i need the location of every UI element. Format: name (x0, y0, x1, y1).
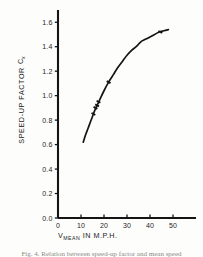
data-curve (83, 30, 168, 143)
y-tick-label: 1.6 (42, 19, 52, 26)
axes (58, 10, 196, 218)
y-tick-label: 0.0 (42, 215, 52, 222)
figure-caption: Fig. 4. Relation between speed-up factor… (0, 249, 203, 257)
x-tick-label: 30 (123, 222, 131, 229)
figure-panel: 0.00.20.40.60.81.01.21.41.601020304050 S… (0, 0, 203, 257)
curve-path (83, 30, 168, 143)
y-axis-title-symbol: Cx (16, 56, 26, 64)
data-point-marker (95, 104, 99, 106)
y-tick-label: 0.4 (42, 166, 52, 173)
data-points (92, 31, 163, 115)
x-axis-units: IN M.P.H. (83, 231, 118, 240)
tick-marks (55, 22, 173, 218)
y-tick-label: 1.2 (42, 68, 52, 75)
y-axis-symbol-base: C (16, 59, 25, 64)
x-tick-label: 50 (169, 222, 177, 229)
x-tick-label: 10 (77, 222, 85, 229)
x-axis-symbol-subscript: MEAN (63, 235, 80, 241)
x-tick-label: 0 (56, 222, 60, 229)
tick-labels: 0.00.20.40.60.81.01.21.41.601020304050 (42, 19, 177, 229)
y-tick-label: 1.4 (42, 43, 52, 50)
y-tick-label: 0.2 (42, 190, 52, 197)
y-axis-title: SPEED-UP FACTOR Cx (9, 35, 33, 165)
y-tick-label: 0.8 (42, 117, 52, 124)
y-axis-title-main: SPEED-UP FACTOR (17, 67, 26, 144)
y-tick-label: 1.0 (42, 92, 52, 99)
data-point-marker (92, 113, 96, 115)
y-axis-symbol-subscript: x (20, 56, 26, 59)
x-tick-label: 20 (100, 222, 108, 229)
x-axis-title: VMEAN IN M.P.H. (58, 231, 198, 241)
y-tick-label: 0.6 (42, 141, 52, 148)
x-tick-label: 40 (146, 222, 154, 229)
